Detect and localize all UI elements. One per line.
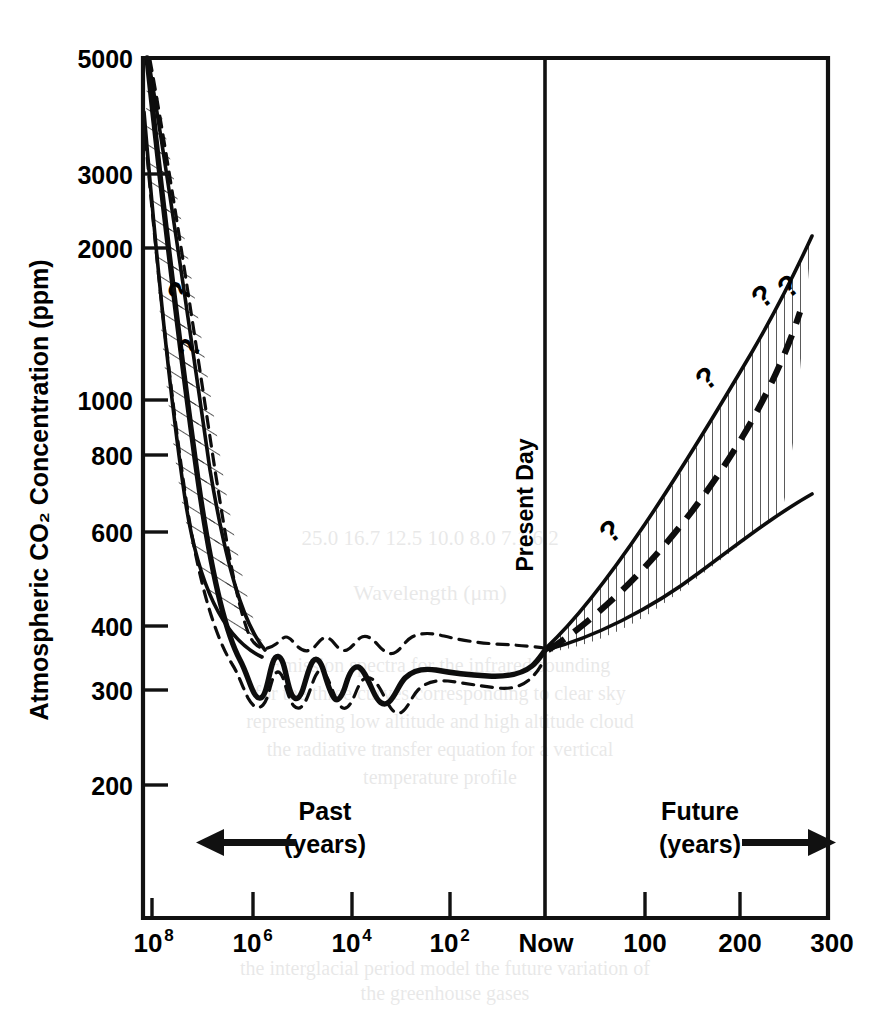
future-arrow-icon — [742, 829, 836, 856]
svg-text:10: 10 — [332, 928, 361, 958]
question-mark-future-near: ? — [593, 513, 628, 550]
co2-figure: 25.0 16.7 12.5 10.0 8.0 7.1 6.2 Waveleng… — [0, 0, 890, 1016]
past-region-group: Past (years) — [196, 797, 366, 858]
x-tick-10e4: 10 4 — [332, 926, 373, 958]
x-tick-200: 200 — [718, 928, 761, 958]
svg-text:the greenhouse gases: the greenhouse gases — [361, 982, 530, 1005]
x-tick-100: 100 — [623, 928, 666, 958]
y-axis-tick-labels: 5000 3000 2000 1000 800 600 400 300 200 — [77, 45, 133, 800]
y-tick-3000: 3000 — [77, 161, 133, 189]
svg-text:the interglacial period model: the interglacial period model the future… — [240, 957, 650, 980]
x-tick-10e2: 10 2 — [430, 926, 470, 958]
svg-text:Wavelength (μm): Wavelength (μm) — [353, 580, 507, 605]
future-label: Future — [661, 797, 739, 825]
svg-text:8: 8 — [164, 926, 173, 945]
y-tick-1000: 1000 — [77, 387, 133, 415]
svg-text:6: 6 — [263, 926, 272, 945]
past-arrow-icon — [196, 829, 296, 856]
svg-text:representing low altitude and: representing low altitude and high altit… — [246, 710, 634, 733]
svg-text:10: 10 — [430, 928, 459, 958]
past-units-label: (years) — [284, 830, 366, 858]
present-day-label-group: Present Day — [512, 438, 538, 571]
x-tick-300: 300 — [810, 928, 853, 958]
svg-text:2: 2 — [460, 926, 469, 945]
past-label: Past — [299, 797, 352, 825]
y-axis-title: Atmospheric CO₂ Concentration (ppm) — [25, 259, 53, 720]
y-tick-5000: 5000 — [77, 45, 133, 73]
svg-text:10: 10 — [233, 928, 262, 958]
future-region-group: Future (years) — [659, 797, 836, 858]
svg-text:4: 4 — [362, 926, 372, 945]
svg-text:10: 10 — [134, 928, 163, 958]
chart-svg: 25.0 16.7 12.5 10.0 8.0 7.1 6.2 Waveleng… — [0, 0, 890, 1016]
future-units-label: (years) — [659, 830, 741, 858]
y-tick-300: 300 — [91, 677, 133, 705]
y-tick-2000: 2000 — [77, 235, 133, 263]
present-day-label: Present Day — [512, 438, 538, 571]
x-axis-tick-labels: 10 8 10 6 10 4 10 2 Now 100 200 300 — [134, 926, 854, 958]
x-axis-ticks — [152, 892, 828, 918]
x-tick-10e6: 10 6 — [233, 926, 273, 958]
y-axis-title-group: Atmospheric CO₂ Concentration (ppm) — [25, 259, 53, 720]
x-tick-now: Now — [519, 928, 575, 958]
question-mark-future-mid: ? — [689, 360, 724, 397]
y-tick-200: 200 — [91, 772, 133, 800]
past-uncertainty-wedge — [144, 58, 266, 660]
y-tick-800: 800 — [91, 442, 133, 470]
x-tick-10e8: 10 8 — [134, 926, 174, 958]
y-tick-600: 600 — [91, 519, 133, 547]
y-tick-400: 400 — [91, 613, 133, 641]
svg-text:temperature profile: temperature profile — [363, 766, 517, 789]
svg-text:the radiative transfer equatio: the radiative transfer equation for a ve… — [267, 738, 614, 761]
